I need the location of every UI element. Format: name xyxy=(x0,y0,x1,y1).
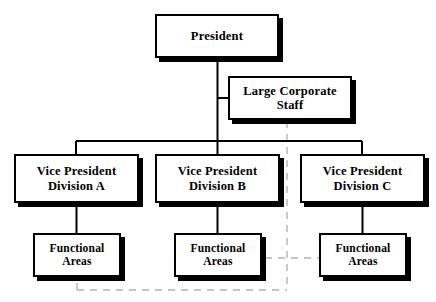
node-vice-president-division-c-label: Vice President Division C xyxy=(323,164,403,193)
node-functional-areas-b: Functional Areas xyxy=(174,233,262,277)
node-vice-president-division-a: Vice President Division A xyxy=(14,154,139,203)
node-functional-areas-a: Functional Areas xyxy=(33,233,121,277)
node-functional-areas-c: Functional Areas xyxy=(319,233,407,277)
node-vice-president-division-b: Vice President Division B xyxy=(155,154,280,203)
node-vice-president-division-b-label: Vice President Division B xyxy=(178,164,258,193)
node-large-corporate-staff: Large Corporate Staff xyxy=(228,76,352,120)
node-functional-areas-a-label: Functional Areas xyxy=(49,242,104,268)
node-vice-president-division-a-label: Vice President Division A xyxy=(37,164,117,193)
node-vice-president-division-c: Vice President Division C xyxy=(300,154,425,203)
node-functional-areas-c-label: Functional Areas xyxy=(335,242,390,268)
node-functional-areas-b-label: Functional Areas xyxy=(190,242,245,268)
org-chart: President Large Corporate Staff Vice Pre… xyxy=(0,0,436,302)
node-large-corporate-staff-label: Large Corporate Staff xyxy=(243,84,337,113)
node-president: President xyxy=(155,14,279,58)
node-president-label: President xyxy=(191,29,243,43)
